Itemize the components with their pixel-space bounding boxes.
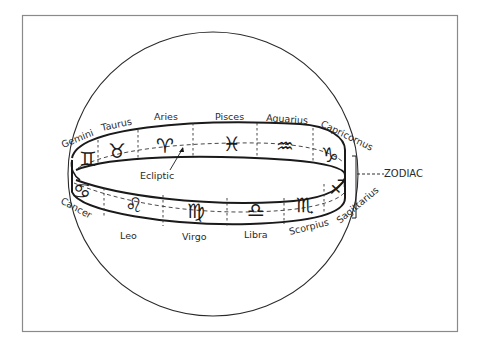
label-libra: Libra	[244, 229, 268, 240]
aries-glyph: ♈	[156, 134, 174, 158]
aquarius-glyph: ♒	[276, 134, 294, 158]
label-leo: Leo	[120, 230, 137, 241]
label-ecliptic: Ecliptic	[140, 170, 174, 181]
label-pisces: Pisces	[215, 111, 244, 122]
label-aquarius: Aquarius	[266, 112, 308, 126]
sagittarius-glyph: ♐	[329, 175, 347, 199]
gemini-glyph: ♊	[79, 147, 97, 171]
label-virgo: Virgo	[182, 231, 207, 242]
label-zodiac: ZODIAC	[384, 168, 423, 179]
zodiac-diagram: ♊ ♉ ♈ ♓ ♒ ♑ ♋ ♌ ♍ ♎ ♏ ♐ Gemini Taurus Ar…	[0, 0, 481, 348]
leo-glyph: ♌	[125, 193, 143, 217]
libra-glyph: ♎	[247, 198, 265, 222]
capricornus-glyph: ♑	[321, 143, 339, 167]
pisces-glyph: ♓	[223, 132, 241, 156]
label-aries: Aries	[154, 111, 178, 122]
taurus-glyph: ♉	[108, 139, 126, 163]
cancer-glyph: ♋	[73, 179, 91, 203]
scorpius-glyph: ♏	[296, 193, 314, 217]
virgo-glyph: ♍	[187, 199, 205, 223]
